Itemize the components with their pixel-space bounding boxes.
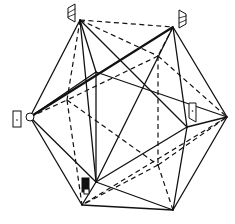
hidden-edges [30, 20, 227, 210]
door-right-icon [189, 103, 196, 122]
flag-top-right-icon [179, 10, 186, 28]
polyhedron-diagram [0, 0, 235, 224]
flag-top-left-icon [68, 4, 75, 22]
visible-edges [30, 20, 227, 210]
block-bottom-icon [82, 178, 89, 194]
door-left-icon [13, 111, 34, 127]
